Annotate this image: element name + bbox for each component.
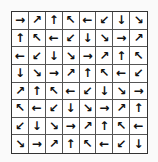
grid-cell[interactable]: ← <box>80 12 97 30</box>
arrow-left-icon: ← <box>99 138 109 150</box>
arrow-left-icon: ← <box>82 14 92 26</box>
arrow-right-icon: → <box>134 85 144 97</box>
grid-cell[interactable]: → <box>96 100 113 118</box>
grid-cell[interactable]: ↑ <box>80 65 97 83</box>
grid-cell[interactable]: ↓ <box>130 135 147 153</box>
grid-cell[interactable]: → <box>29 135 46 153</box>
arrow-left-icon: ← <box>134 120 144 132</box>
grid-cell[interactable]: ↓ <box>80 30 97 48</box>
grid-cell[interactable]: ↑ <box>63 135 80 153</box>
grid-cell[interactable]: ↖ <box>63 12 80 30</box>
arrow-up-right-icon: ↗ <box>116 102 126 114</box>
grid-cell[interactable]: ← <box>46 30 63 48</box>
arrow-up-left-icon: ↖ <box>134 50 144 62</box>
arrow-down-icon: ↓ <box>15 67 25 79</box>
grid-cell[interactable]: ← <box>29 100 46 118</box>
grid-cell[interactable]: ↙ <box>96 12 113 30</box>
grid-cell[interactable]: → <box>80 47 97 65</box>
grid-cell[interactable]: ← <box>12 47 29 65</box>
grid-cell[interactable]: ↗ <box>12 83 29 101</box>
grid-cell[interactable]: ↙ <box>29 47 46 65</box>
arrow-right-icon: → <box>49 67 59 79</box>
grid-cell[interactable]: ↗ <box>46 135 63 153</box>
grid-cell[interactable]: ↓ <box>46 47 63 65</box>
grid-cell[interactable]: ↗ <box>113 100 130 118</box>
grid-cell[interactable]: ↑ <box>12 30 29 48</box>
arrow-down-icon: ↓ <box>82 32 92 44</box>
arrow-down-icon: ↓ <box>32 120 42 132</box>
grid-cell[interactable]: ↘ <box>12 135 29 153</box>
grid-cell[interactable]: ↖ <box>12 100 29 118</box>
grid-cell[interactable]: ↙ <box>12 118 29 136</box>
grid-cell[interactable]: ↑ <box>29 83 46 101</box>
grid-cell[interactable]: ↑ <box>130 100 147 118</box>
arrow-up-left-icon: ↖ <box>66 14 76 26</box>
arrow-up-icon: ↑ <box>134 102 144 114</box>
arrow-down-right-icon: ↘ <box>49 120 59 132</box>
grid-cell[interactable]: → <box>113 30 130 48</box>
grid-cell[interactable]: ↑ <box>46 12 63 30</box>
arrow-up-left-icon: ↖ <box>49 85 59 97</box>
grid-cell[interactable]: ← <box>63 83 80 101</box>
grid-cell[interactable]: ← <box>96 135 113 153</box>
grid-cell[interactable]: ↘ <box>46 118 63 136</box>
arrow-down-icon: ↓ <box>134 138 144 150</box>
grid-cell[interactable]: ↗ <box>80 118 97 136</box>
arrow-up-icon: ↑ <box>32 85 42 97</box>
arrow-up-right-icon: ↗ <box>32 14 42 26</box>
arrow-down-left-icon: ↙ <box>66 32 76 44</box>
grid-cell[interactable]: ↙ <box>46 100 63 118</box>
grid-cell[interactable]: ← <box>130 118 147 136</box>
grid-cell[interactable]: ↙ <box>130 65 147 83</box>
grid-cell[interactable]: ↘ <box>63 47 80 65</box>
grid-cell[interactable]: ↗ <box>130 30 147 48</box>
grid-cell[interactable]: ↑ <box>113 47 130 65</box>
grid-cell[interactable]: → <box>63 118 80 136</box>
grid-cell[interactable]: ↓ <box>113 12 130 30</box>
grid-cell[interactable]: ↑ <box>96 118 113 136</box>
grid-cell[interactable]: ← <box>113 65 130 83</box>
arrow-up-right-icon: ↗ <box>134 32 144 44</box>
grid-cell[interactable]: ↙ <box>63 30 80 48</box>
grid-cell[interactable]: ↘ <box>96 30 113 48</box>
arrow-up-icon: ↑ <box>99 120 109 132</box>
arrow-up-left-icon: ↖ <box>82 138 92 150</box>
grid-cell[interactable]: ↖ <box>29 30 46 48</box>
grid-cell[interactable]: ↘ <box>29 65 46 83</box>
grid-cell[interactable]: ↙ <box>80 83 97 101</box>
arrow-up-icon: ↑ <box>49 14 59 26</box>
grid-cell[interactable]: ↘ <box>113 83 130 101</box>
grid-cell[interactable]: ↖ <box>96 65 113 83</box>
grid-cell[interactable]: → <box>12 12 29 30</box>
grid-cell[interactable]: ↗ <box>29 12 46 30</box>
grid-cell[interactable]: ↓ <box>96 83 113 101</box>
arrow-up-icon: ↑ <box>15 32 25 44</box>
grid-cell[interactable]: ↖ <box>130 47 147 65</box>
arrow-down-right-icon: ↘ <box>82 102 92 114</box>
arrow-right-icon: → <box>99 102 109 114</box>
grid-cell[interactable]: ↗ <box>63 65 80 83</box>
arrow-grid: →↗↑↖←↙↓↘↑↖←↙↓↘→↗←↙↓↘→↗↑↖↓↘→↗↑↖←↙↗↑↖←↙↓↘→… <box>11 11 148 154</box>
arrow-up-right-icon: ↗ <box>82 120 92 132</box>
arrow-down-left-icon: ↙ <box>134 67 144 79</box>
grid-cell[interactable]: ↖ <box>80 135 97 153</box>
grid-cell[interactable]: ↓ <box>63 100 80 118</box>
grid-cell[interactable]: ↙ <box>113 135 130 153</box>
arrow-up-right-icon: ↗ <box>99 50 109 62</box>
arrow-up-right-icon: ↗ <box>49 138 59 150</box>
grid-cell[interactable]: → <box>46 65 63 83</box>
arrow-down-left-icon: ↙ <box>99 14 109 26</box>
arrow-down-right-icon: ↘ <box>15 138 25 150</box>
grid-cell[interactable]: ↗ <box>96 47 113 65</box>
arrow-up-icon: ↑ <box>82 67 92 79</box>
grid-cell[interactable]: ↘ <box>130 12 147 30</box>
grid-cell[interactable]: → <box>130 83 147 101</box>
arrow-left-icon: ← <box>116 67 126 79</box>
grid-cell[interactable]: ↓ <box>12 65 29 83</box>
grid-cell[interactable]: ↖ <box>46 83 63 101</box>
grid-cell[interactable]: ↘ <box>80 100 97 118</box>
arrow-up-right-icon: ↗ <box>15 85 25 97</box>
arrow-down-right-icon: ↘ <box>32 67 42 79</box>
grid-cell[interactable]: ↓ <box>29 118 46 136</box>
grid-cell[interactable]: ↖ <box>113 118 130 136</box>
